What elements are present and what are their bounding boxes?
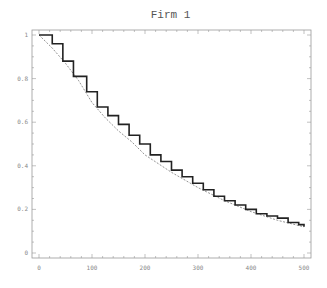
plot-area: 010020030040050000.20.40.60.81 xyxy=(0,0,327,288)
x-tick-label: 0 xyxy=(37,264,41,271)
step-curve xyxy=(39,35,304,227)
x-tick-label: 400 xyxy=(246,264,257,271)
x-tick-label: 100 xyxy=(87,264,98,271)
y-tick-label: 0.4 xyxy=(17,162,28,169)
tick-labels: 010020030040050000.20.40.60.81 xyxy=(17,31,310,271)
x-tick-label: 500 xyxy=(299,264,310,271)
y-tick-label: 0.6 xyxy=(17,118,28,125)
y-tick-label: 0.2 xyxy=(17,205,28,212)
y-tick-label: 0.8 xyxy=(17,75,28,82)
y-tick-label: 1 xyxy=(24,31,28,38)
x-tick-label: 300 xyxy=(193,264,204,271)
fitted-curve xyxy=(39,35,304,227)
y-tick-label: 0 xyxy=(24,249,28,256)
x-tick-label: 200 xyxy=(140,264,151,271)
